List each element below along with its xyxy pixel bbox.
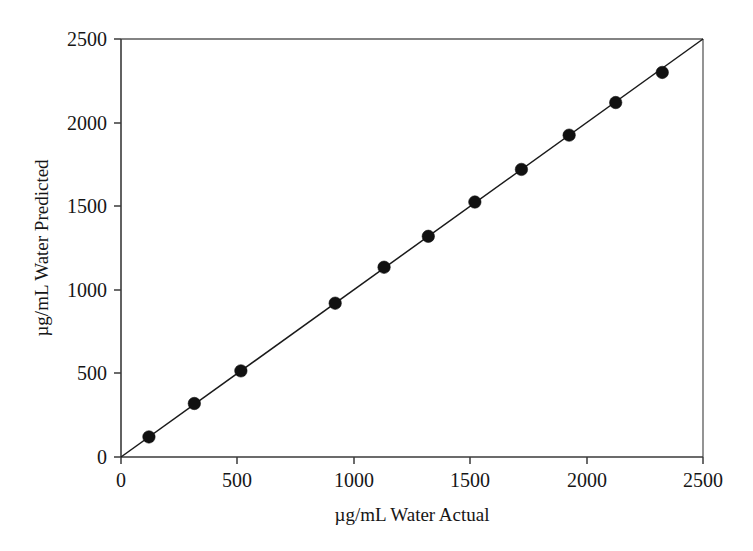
x-tick-label-1500: 1500 [450, 469, 490, 491]
x-tick-label-0: 0 [116, 469, 126, 491]
y-tick-label-0: 0 [97, 446, 107, 468]
data-point [422, 230, 434, 242]
y-tick-label-2000: 2000 [67, 112, 107, 134]
data-point [143, 431, 155, 443]
x-tick-label-500: 500 [222, 469, 252, 491]
data-point [378, 261, 390, 273]
data-point [329, 297, 341, 309]
x-tick-label-1000: 1000 [334, 469, 374, 491]
data-point [188, 397, 200, 409]
x-tick-label-2000: 2000 [567, 469, 607, 491]
data-point [563, 129, 575, 141]
chart-figure: 0 500 1000 1500 2000 2500 0 500 1000 150… [0, 0, 753, 551]
x-axis-title: µg/mL Water Actual [334, 504, 489, 525]
data-point [469, 196, 481, 208]
y-axis-title: µg/mL Water Predicted [31, 159, 52, 337]
scatter-plot: 0 500 1000 1500 2000 2500 0 500 1000 150… [0, 0, 753, 551]
x-tick-label-2500: 2500 [683, 469, 723, 491]
y-tick-label-500: 500 [77, 362, 107, 384]
y-tick-label-1500: 1500 [67, 195, 107, 217]
figure-background [0, 0, 753, 551]
data-point [656, 66, 668, 78]
y-tick-label-2500: 2500 [67, 28, 107, 50]
data-point [610, 96, 622, 108]
data-point [515, 163, 527, 175]
data-point [235, 365, 247, 377]
y-tick-label-1000: 1000 [67, 279, 107, 301]
